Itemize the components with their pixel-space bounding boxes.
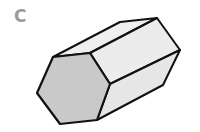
hexagonal-prism-figure xyxy=(0,0,200,132)
